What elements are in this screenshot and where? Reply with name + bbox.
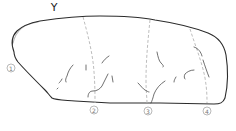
marker-3: 3: [144, 107, 152, 115]
crack-marks: [57, 47, 209, 103]
section-line-2: [83, 17, 95, 103]
marker-4-label: 4: [205, 108, 209, 115]
marker-3-label: 3: [146, 108, 150, 115]
section-line-4: [190, 29, 207, 103]
view-label: Y: [50, 1, 58, 14]
marker-1-label: 1: [9, 65, 13, 72]
marker-1: 1: [7, 64, 15, 72]
marker-2: 2: [90, 106, 98, 114]
artifact-outline: [12, 16, 227, 104]
marker-2-label: 2: [92, 107, 96, 114]
marker-4: 4: [203, 107, 211, 115]
artifact-diagram: Y 1 2 3 4: [0, 0, 236, 131]
